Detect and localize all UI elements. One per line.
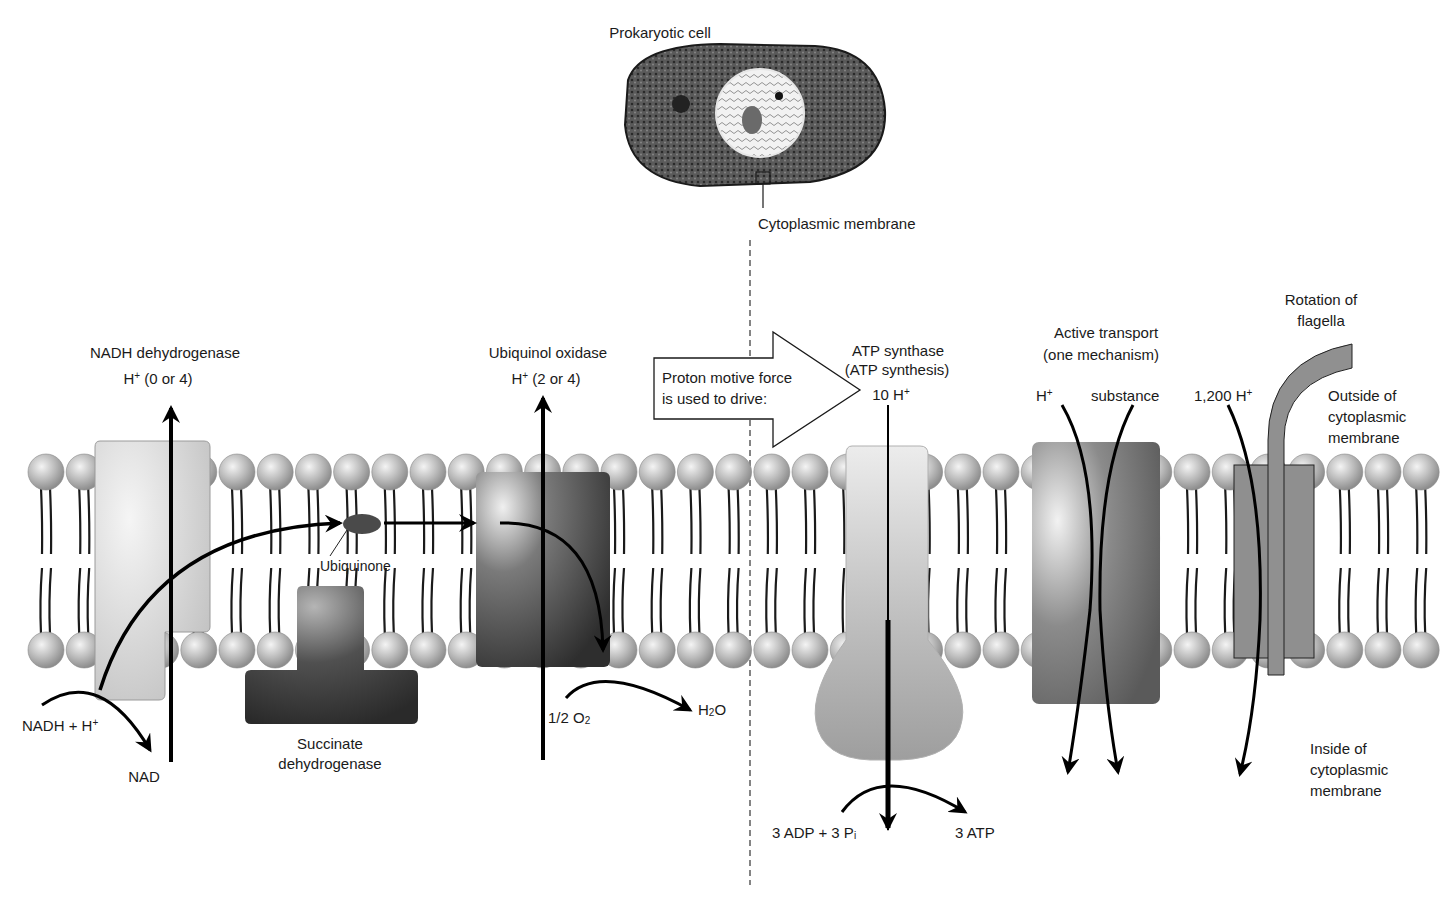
prokaryotic-cell-illustration: [625, 44, 885, 208]
nadh-substrate-label: NADH + H+: [22, 716, 98, 735]
cytoplasmic-membrane-label: Cytoplasmic membrane: [758, 214, 916, 233]
flagella-proton-label: 1,200 H+: [1194, 386, 1252, 405]
adp-to-atp-arrow: [842, 786, 965, 812]
outside-membrane-label: Outside ofcytoplasmicmembrane: [1328, 385, 1406, 448]
pmf-line2: is used to drive:: [662, 388, 792, 409]
succinate-label-line1: Succinate: [297, 734, 363, 753]
granule: [672, 95, 690, 113]
ubiquinone-label: Ubiquinone: [320, 557, 391, 576]
transport-proton-label: H+: [1036, 386, 1053, 405]
oxygen-to-water-arrow: [566, 682, 690, 710]
atp-synthesis-label: (ATP synthesis): [845, 360, 949, 379]
active-transporter-protein: [1032, 442, 1160, 704]
proton-motive-force-text: Proton motive force is used to drive:: [662, 367, 792, 409]
lipid-bilayer: [28, 454, 1439, 668]
oxygen-label: 1/2 O2: [548, 708, 590, 727]
atp-synthase-label: ATP synthase: [852, 341, 944, 360]
nadh-proton-label: H+ (0 or 4): [123, 369, 192, 388]
nad-product-label: NAD: [128, 767, 160, 786]
atp-product-label: 3 ATP: [955, 823, 995, 842]
membrane-diagram: [0, 0, 1446, 905]
oxidase-proton-label: H+ (2 or 4): [511, 369, 580, 388]
rotation-of-label: Rotation of: [1285, 290, 1358, 309]
succinate-label-line2: dehydrogenase: [278, 754, 381, 773]
cell-title: Prokaryotic cell: [609, 23, 711, 42]
adp-substrate-label: 3 ADP + 3 Pi: [772, 823, 856, 842]
inside-membrane-label: Inside ofcytoplasmicmembrane: [1310, 738, 1388, 801]
atp-proton-label: 10 H+: [872, 385, 910, 404]
substance-label: substance: [1091, 386, 1159, 405]
ubiquinol-oxidase-label: Ubiquinol oxidase: [489, 343, 607, 362]
pmf-line1: Proton motive force: [662, 367, 792, 388]
one-mechanism-label: (one mechanism): [1043, 345, 1159, 364]
ubiquinone-leader-line: [330, 530, 347, 556]
ubiquinone-molecule: [343, 514, 381, 534]
nadh-dehydrogenase-label: NADH dehydrogenase: [90, 343, 240, 362]
flagella-label: flagella: [1297, 311, 1345, 330]
active-transport-label: Active transport: [1054, 323, 1158, 342]
water-label: H2O: [698, 700, 726, 719]
